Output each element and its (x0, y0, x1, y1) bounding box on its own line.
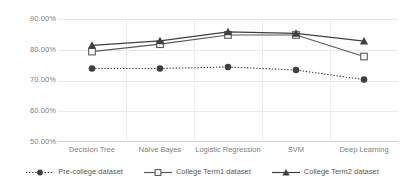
y-tick-label: 80.00% (6, 46, 56, 54)
legend-label: College Term2 dataset (304, 167, 379, 177)
chart-legend: Pre-college dataset College Term1 datase… (0, 167, 404, 177)
gridline-60 (58, 111, 398, 112)
vertical-gridline (194, 19, 195, 142)
x-tick-label-deep-learning: Deep Learning (330, 145, 398, 159)
legend-marker-circle-icon (25, 168, 55, 177)
x-tick-label-decision-tree: Decision Tree (58, 145, 126, 159)
plot-area (58, 19, 398, 142)
legend-marker-triangle-icon (271, 168, 301, 177)
gridline-80 (58, 50, 398, 51)
legend-item-pre-college[interactable]: Pre-college dataset (25, 167, 123, 177)
x-tick-label-svm: SVM (262, 145, 330, 159)
vertical-gridline (262, 19, 263, 142)
x-tick-label-logistic-regression: Logistic Regression (194, 145, 262, 159)
legend-label: College Term1 dataset (176, 167, 251, 177)
x-tick-label-naive-bayes: Naïve Bayes (126, 145, 194, 159)
y-tick-label: 60.00% (6, 107, 56, 115)
y-tick-label: 90.00% (6, 15, 56, 23)
legend-label: Pre-college dataset (58, 167, 123, 177)
vertical-gridline (330, 19, 331, 142)
x-axis-tick-labels: Decision Tree Naïve Bayes Logistic Regre… (58, 145, 398, 159)
x-axis-line (58, 141, 398, 142)
gridline-90 (58, 19, 398, 20)
legend-item-college-term2[interactable]: College Term2 dataset (271, 167, 379, 177)
vertical-gridline (126, 19, 127, 142)
y-tick-label: 50.00% (6, 138, 56, 146)
legend-marker-square-icon (143, 168, 173, 177)
gridline-70 (58, 81, 398, 82)
line-chart: 90.00% 80.00% 70.00% 60.00% 50.00% Decis… (0, 0, 404, 187)
legend-item-college-term1[interactable]: College Term1 dataset (143, 167, 251, 177)
y-tick-label: 70.00% (6, 76, 56, 84)
